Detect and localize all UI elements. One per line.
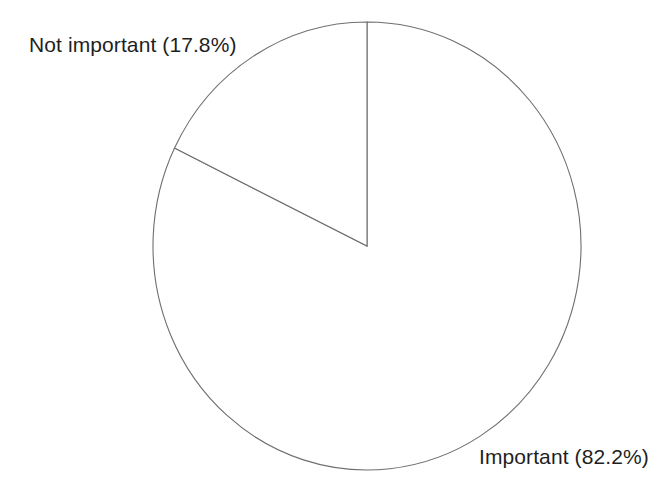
pie-label-important: Important (82.2%) (479, 446, 649, 467)
pie-chart-svg (0, 0, 667, 493)
pie-chart: Not important (17.8%) Important (82.2%) (0, 0, 667, 493)
pie-label-not-important: Not important (17.8%) (29, 34, 237, 55)
